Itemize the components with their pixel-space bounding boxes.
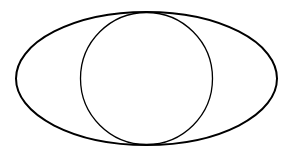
diagram-canvas (0, 0, 292, 161)
background (0, 0, 292, 161)
